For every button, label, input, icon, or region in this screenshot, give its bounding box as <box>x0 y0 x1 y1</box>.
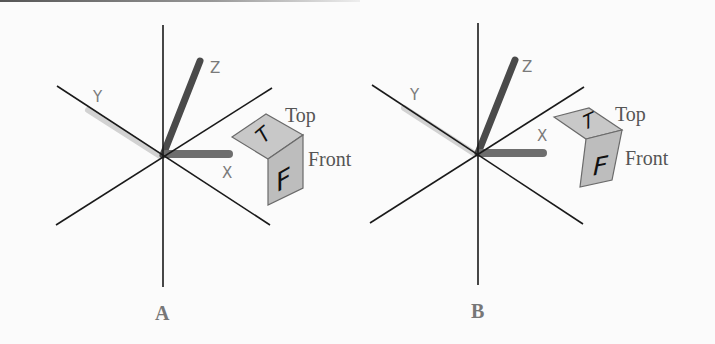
z-rod <box>478 60 515 153</box>
figure-caption-b: B <box>471 300 484 322</box>
z-axis-label: Z <box>522 58 532 76</box>
y-axis-label: Y <box>409 86 420 104</box>
coordinate-diagram: Z Y X T F Top Front A Z Y X T F Top Fron… <box>0 0 715 344</box>
orientation-cube: T F <box>554 106 622 187</box>
y-rod <box>404 108 475 154</box>
x-axis-label: X <box>537 127 547 145</box>
figure-a: Z Y X T F Top Front A <box>56 25 352 324</box>
top-label: Top <box>615 103 646 126</box>
front-label: Front <box>308 148 352 170</box>
y-axis-label: Y <box>92 88 103 106</box>
z-rod <box>163 61 200 155</box>
orientation-cube: T F <box>232 114 303 205</box>
front-label: Front <box>625 147 669 169</box>
top-label: Top <box>285 104 316 127</box>
z-axis-label: Z <box>210 59 220 77</box>
figure-b: Z Y X T F Top Front B <box>370 23 669 322</box>
x-axis-label: X <box>222 164 232 182</box>
figure-caption-a: A <box>155 302 170 324</box>
y-rod <box>88 110 160 156</box>
